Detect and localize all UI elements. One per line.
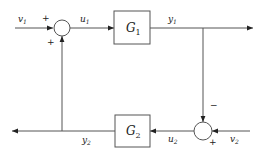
y1-label: y1 (167, 14, 177, 25)
sum2-minus-top: − (210, 100, 218, 110)
v1-label: v1 (18, 14, 27, 25)
block-diagram: G1 G2 v1 u1 y1 v2 u2 y2 + + − + (0, 0, 261, 157)
y2-label: y2 (81, 135, 91, 146)
sum1-plus-bottom: + (47, 37, 55, 47)
sum2-plus-bottom: + (209, 137, 217, 147)
u2-label: u2 (168, 134, 178, 145)
u1-label: u1 (80, 14, 90, 25)
v2-label: v2 (230, 134, 239, 145)
sum1-plus-left: + (42, 13, 50, 23)
summing-junction-1 (54, 20, 70, 36)
